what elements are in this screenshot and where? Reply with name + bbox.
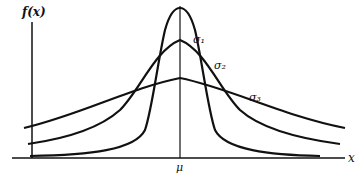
curve-label-sigma1: σ₁ [193, 34, 205, 45]
x-axis-label: x [348, 152, 355, 164]
normal-curves-diagram [0, 0, 361, 175]
y-axis-label: f(x) [22, 6, 46, 18]
curve-sigma2 [28, 40, 340, 144]
curve-label-sigma2: σ₂ [214, 60, 226, 71]
curve-label-sigma3: σ₃ [249, 92, 261, 103]
curve-sigma3 [24, 78, 345, 128]
mean-label: μ [176, 162, 183, 173]
